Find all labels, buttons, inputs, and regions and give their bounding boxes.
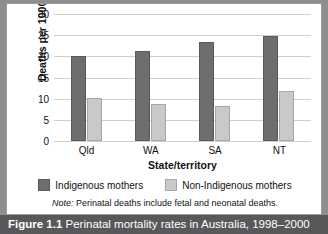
bar-group-nt: NT	[263, 14, 294, 141]
note-label: Note:	[52, 198, 74, 208]
bar-nt-non-indigenous	[279, 91, 294, 141]
bar-group-wa: WA	[135, 14, 166, 141]
figure-number: Figure 1.1	[8, 218, 62, 230]
figure-caption: Figure 1.1 Perinatal mortality rates in …	[8, 218, 310, 230]
y-tick-label: 10	[38, 93, 49, 104]
bar-sa-indigenous	[199, 42, 214, 141]
y-tick-label: 15	[38, 72, 49, 83]
x-tick-label-nt: NT	[263, 145, 295, 156]
legend-label: Indigenous mothers	[55, 180, 143, 191]
bar-qld-indigenous	[71, 56, 86, 141]
x-axis-title: State/territory	[54, 159, 311, 171]
plot-area: 051015202530QldWASANT	[54, 14, 311, 142]
bar-nt-indigenous	[263, 36, 278, 141]
legend-swatch-icon	[38, 179, 50, 191]
y-tick-label: 25	[38, 30, 49, 41]
chart-note: Note: Perinatal deaths include fetal and…	[7, 198, 322, 208]
legend-label: Non-Indigenous mothers	[182, 180, 292, 191]
figure-caption-text: Perinatal mortality rates in Australia, …	[66, 218, 310, 230]
bar-wa-indigenous	[135, 51, 150, 141]
x-tick-label-qld: Qld	[71, 145, 103, 156]
y-tick-label: 0	[43, 136, 49, 147]
bar-qld-non-indigenous	[87, 98, 102, 141]
y-tick-label: 20	[38, 51, 49, 62]
legend-swatch-icon	[165, 179, 177, 191]
y-tick-label: 5	[43, 114, 49, 125]
chart-card: Deaths per 1000 births 051015202530QldWA…	[6, 3, 322, 215]
bar-sa-non-indigenous	[215, 106, 230, 141]
bar-group-qld: Qld	[71, 14, 102, 141]
legend-item-indigenous: Indigenous mothers	[38, 179, 143, 191]
legend-item-non-indigenous: Non-Indigenous mothers	[165, 179, 292, 191]
bar-wa-non-indigenous	[151, 104, 166, 141]
note-text: Perinatal deaths include fetal and neona…	[76, 198, 278, 208]
x-tick-label-wa: WA	[135, 145, 167, 156]
bar-group-sa: SA	[199, 14, 230, 141]
y-tick-label: 30	[38, 9, 49, 20]
figure-container: Deaths per 1000 births 051015202530QldWA…	[0, 0, 328, 234]
chart-legend: Indigenous mothersNon-Indigenous mothers	[7, 179, 322, 191]
x-tick-label-sa: SA	[199, 145, 231, 156]
gridline-y-0	[54, 141, 311, 142]
caption-bar: Figure 1.1 Perinatal mortality rates in …	[0, 215, 328, 234]
